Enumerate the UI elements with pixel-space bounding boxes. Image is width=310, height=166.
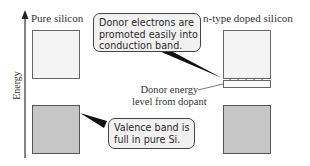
annotation-line: Donor energy — [132, 84, 207, 96]
n-type-valence-band — [223, 105, 271, 154]
callout-line: Donor electrons are — [99, 17, 195, 29]
n-type-silicon-title: n-type doped silicon — [203, 12, 293, 24]
callout-line: conduction band. — [99, 40, 195, 52]
callout-line: Valence band is — [114, 122, 189, 134]
pure-conduction-band — [32, 30, 80, 79]
callout-line: promoted easily into — [99, 29, 195, 41]
pure-silicon-title: Pure silicon — [31, 12, 83, 24]
pure-valence-band — [32, 105, 80, 154]
valence-callout-pointer — [80, 113, 107, 128]
valence-band-callout: Valence band is full in pure Si. — [108, 118, 195, 149]
energy-axis-label: Energy — [11, 66, 22, 106]
energy-axis-arrow-icon — [22, 10, 29, 19]
donor-level-annotation: Donor energy level from dopant — [132, 84, 207, 108]
donor-energy-level — [223, 80, 271, 88]
annotation-line: level from dopant — [132, 96, 207, 108]
donor-electrons-callout: Donor electrons are promoted easily into… — [93, 13, 201, 52]
callout-line: full in pure Si. — [114, 134, 189, 146]
n-type-conduction-band — [223, 30, 271, 79]
